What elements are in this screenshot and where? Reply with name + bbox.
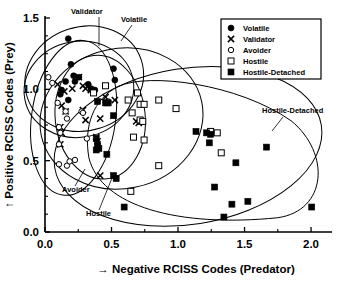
legend-label: Hostile <box>243 57 268 66</box>
data-point <box>80 110 85 115</box>
data-point <box>156 97 162 103</box>
data-point <box>55 100 60 105</box>
data-point <box>125 97 131 103</box>
data-point <box>84 136 89 141</box>
data-point <box>173 106 179 112</box>
y-tick-label: 0.0 <box>23 226 39 238</box>
data-point <box>112 77 118 83</box>
data-point <box>58 130 63 135</box>
data-point <box>221 214 227 220</box>
cluster-label-validator: Validator <box>71 7 103 16</box>
y-tick-label: 1.5 <box>23 12 40 24</box>
x-tick-label: 0.5 <box>104 238 121 250</box>
data-point <box>104 151 110 157</box>
data-point <box>68 61 74 67</box>
data-point <box>218 150 224 156</box>
data-point <box>97 173 103 179</box>
data-point <box>128 188 134 194</box>
x-tick-label: 0.0 <box>37 238 53 250</box>
data-point <box>103 83 109 89</box>
data-point <box>46 75 51 80</box>
data-point <box>140 118 146 124</box>
data-point <box>309 204 315 210</box>
data-point <box>105 100 111 106</box>
cluster-label-volatile: Volatile <box>121 15 147 24</box>
x-tick-label: 2.0 <box>303 238 319 250</box>
legend-marker-filled-square <box>228 69 234 75</box>
legend-label: Avoider <box>243 46 271 55</box>
data-point <box>97 115 103 121</box>
data-point <box>245 198 251 204</box>
data-point <box>50 80 55 85</box>
data-point <box>229 201 235 207</box>
data-point <box>65 97 71 103</box>
y-tick-label: 1.0 <box>23 83 39 95</box>
data-point <box>233 160 239 166</box>
data-point <box>208 131 214 137</box>
data-point <box>134 90 140 96</box>
legend-group: VolatileValidatorAvoiderHostileHostile-D… <box>221 19 321 79</box>
data-point <box>91 90 97 96</box>
data-point <box>82 117 88 123</box>
data-point <box>67 159 72 164</box>
data-point <box>93 136 99 142</box>
legend-marker-open-square <box>228 58 234 64</box>
data-point <box>64 116 69 121</box>
cluster-label-hostile-detached: Hostile-Detached <box>262 106 324 115</box>
hostile-detached-outer-envelope <box>87 81 318 221</box>
cluster-leader-line <box>99 178 112 210</box>
data-point <box>63 78 69 84</box>
cluster-label-hostile: Hostile <box>86 209 111 218</box>
data-point <box>206 140 212 146</box>
legend-marker-filled-circle <box>228 25 234 31</box>
plot-canvas: 0.00.51.01.52.00.00.51.01.5→ Negative RC… <box>0 0 340 284</box>
y-axis-title: ↑ Positive RCISS Codes (Prey) <box>3 42 15 208</box>
data-point <box>263 144 269 150</box>
volatile-ellipse <box>11 11 157 147</box>
data-point <box>95 98 101 104</box>
series-hostile-detached <box>93 98 314 220</box>
data-point <box>212 184 218 190</box>
data-point <box>69 86 75 92</box>
data-point <box>141 101 147 107</box>
data-point <box>63 109 68 114</box>
legend-label: Volatile <box>243 24 269 33</box>
data-point <box>193 128 199 134</box>
cluster-leader-line <box>272 117 283 131</box>
data-point <box>65 36 71 42</box>
x-axis-title: → Negative RCISS Codes (Predator) <box>97 263 295 275</box>
x-tick-label: 1.0 <box>170 238 186 250</box>
data-point <box>111 113 117 119</box>
data-point <box>129 110 135 116</box>
data-point <box>56 124 61 129</box>
scatter-plot-figure: 0.00.51.01.52.00.00.51.01.5→ Negative RC… <box>0 0 340 284</box>
data-point <box>121 204 127 210</box>
legend-label: Hostile-Detached <box>243 68 305 77</box>
data-point <box>111 66 117 72</box>
data-point <box>56 142 61 147</box>
data-point <box>156 163 162 169</box>
legend-marker-open-circle <box>228 47 233 52</box>
data-point <box>56 162 61 167</box>
data-point <box>113 176 119 182</box>
data-point <box>141 137 147 143</box>
x-tick-label: 1.5 <box>237 238 254 250</box>
data-point <box>72 157 77 162</box>
legend-label: Validator <box>243 35 275 44</box>
y-tick-label: 0.5 <box>23 155 40 167</box>
cluster-label-avoider: Avoider <box>62 185 90 194</box>
data-point <box>130 134 136 140</box>
data-point <box>214 130 220 136</box>
data-point <box>96 146 102 152</box>
